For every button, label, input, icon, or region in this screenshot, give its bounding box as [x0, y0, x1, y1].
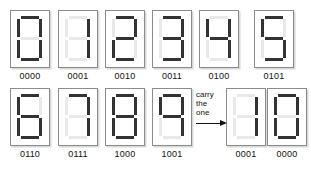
segment-g-on	[116, 37, 134, 40]
segment-f-on	[17, 19, 20, 37]
segment-c-on	[39, 118, 42, 136]
segment-c-on	[134, 118, 137, 136]
segment-group	[17, 94, 43, 140]
segment-a-off	[69, 16, 87, 19]
arrow-shaft	[196, 123, 222, 124]
segment-c-on	[255, 118, 258, 136]
segment-d-off	[210, 58, 228, 61]
segment-c-on	[87, 118, 90, 136]
segment-b-on	[134, 97, 137, 115]
seven-segment-cell: 0011	[152, 10, 196, 68]
binary-label: 0001	[58, 71, 98, 81]
segment-e-off	[261, 40, 264, 58]
seven-segment-cell: 0101	[254, 10, 298, 68]
binary-label: 0100	[199, 71, 239, 81]
carry-line-3: one	[196, 108, 236, 117]
segment-b-on	[255, 97, 258, 115]
binary-label: 0010	[105, 71, 145, 81]
seven-segment-display	[254, 10, 294, 68]
segment-a-on	[21, 94, 39, 97]
segment-a-on	[21, 16, 39, 19]
seven-segment-display	[10, 10, 50, 68]
segment-f-on	[206, 19, 209, 37]
segment-g-on	[163, 115, 181, 118]
seven-segment-cell: 1000	[105, 88, 149, 146]
segment-e-off	[159, 118, 162, 136]
binary-label: 0111	[58, 149, 98, 159]
seven-segment-display	[199, 10, 239, 68]
segment-e-off	[65, 40, 68, 58]
segment-group	[65, 94, 91, 140]
segment-b-off	[283, 19, 286, 37]
arrow-head	[220, 120, 227, 126]
seven-segment-cell: 0010	[105, 10, 149, 68]
segment-e-off	[159, 40, 162, 58]
segment-g-off	[237, 115, 255, 118]
segment-e-on	[17, 118, 20, 136]
segment-e-on	[112, 40, 115, 58]
segment-a-on	[116, 94, 134, 97]
seven-segment-cell: 0100	[199, 10, 243, 68]
segment-f-off	[65, 97, 68, 115]
segment-b-on	[296, 97, 299, 115]
seven-segment-cell: 0001	[58, 10, 102, 68]
seven-segment-display	[10, 88, 50, 146]
segment-g-on	[21, 115, 39, 118]
segment-group	[159, 94, 185, 140]
seven-segment-cell: 0111	[58, 88, 102, 146]
binary-label: 1000	[105, 149, 145, 159]
seven-segment-cell: 0000	[267, 88, 311, 146]
segment-d-on	[163, 58, 181, 61]
seven-segment-display	[58, 88, 98, 146]
seven-segment-cell: 0000	[10, 10, 54, 68]
segment-b-on	[181, 19, 184, 37]
segment-c-on	[228, 40, 231, 58]
segment-e-on	[112, 118, 115, 136]
seven-segment-display	[58, 10, 98, 68]
segment-a-on	[163, 94, 181, 97]
segment-b-on	[134, 19, 137, 37]
right-arrow-icon	[196, 120, 228, 127]
segment-g-off	[69, 37, 87, 40]
segment-f-on	[17, 97, 20, 115]
segment-a-on	[278, 94, 296, 97]
segment-group	[159, 16, 185, 62]
segment-f-on	[112, 97, 115, 115]
segment-e-off	[233, 118, 236, 136]
segment-b-off	[39, 97, 42, 115]
binary-label: 0101	[254, 71, 294, 81]
segment-g-on	[210, 37, 228, 40]
segment-d-on	[21, 58, 39, 61]
seven-segment-display	[105, 10, 145, 68]
segment-b-on	[181, 97, 184, 115]
segment-group	[206, 16, 232, 62]
segment-group	[112, 94, 138, 140]
segment-c-on	[296, 118, 299, 136]
binary-label: 0011	[152, 71, 192, 81]
segment-b-on	[87, 97, 90, 115]
segment-d-off	[237, 136, 255, 139]
segment-a-on	[265, 16, 283, 19]
segment-e-on	[274, 118, 277, 136]
segment-b-on	[87, 19, 90, 37]
segment-c-on	[181, 118, 184, 136]
segment-g-off	[278, 115, 296, 118]
segment-a-on	[163, 16, 181, 19]
seven-segment-cell: 1001	[152, 88, 196, 146]
segment-a-off	[210, 16, 228, 19]
segment-d-off	[163, 136, 181, 139]
segment-c-on	[181, 40, 184, 58]
segment-a-off	[237, 94, 255, 97]
segment-f-off	[159, 19, 162, 37]
segment-c-on	[283, 40, 286, 58]
seven-segment-display	[152, 88, 192, 146]
segment-g-on	[116, 115, 134, 118]
segment-group	[65, 16, 91, 62]
binary-label: 0000	[10, 71, 50, 81]
segment-group	[233, 94, 259, 140]
segment-d-off	[69, 58, 87, 61]
segment-d-on	[21, 136, 39, 139]
segment-group	[17, 16, 43, 62]
binary-label: 0110	[10, 149, 50, 159]
segment-group	[274, 94, 300, 140]
